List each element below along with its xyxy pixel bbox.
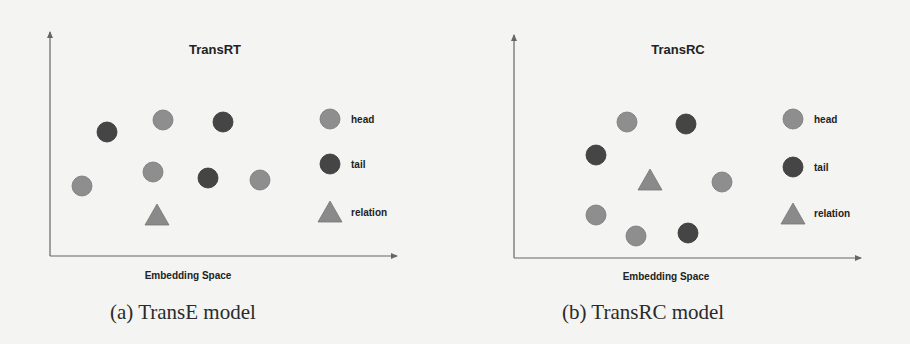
panel-a: TransRT Embedding Space head tail relati… bbox=[50, 32, 397, 281]
data-points bbox=[72, 110, 270, 225]
legend-head-icon bbox=[783, 109, 803, 129]
tail-point bbox=[198, 168, 218, 188]
caption-a: (a) TransE model bbox=[110, 300, 256, 325]
tail-point bbox=[676, 114, 696, 134]
chart-title: TransRT bbox=[189, 42, 241, 57]
legend-tail-icon bbox=[320, 154, 340, 174]
head-point bbox=[153, 110, 173, 130]
relation-point bbox=[638, 169, 662, 190]
tail-point bbox=[586, 145, 606, 165]
head-point bbox=[626, 226, 646, 246]
legend: head tail relation bbox=[318, 109, 387, 222]
tail-point bbox=[97, 122, 117, 142]
head-point bbox=[617, 112, 637, 132]
panel-b: TransRC Embedding Space head tail relati… bbox=[514, 35, 861, 282]
legend-tail-label: tail bbox=[351, 159, 366, 170]
chart-title: TransRC bbox=[651, 42, 705, 57]
legend-relation-icon bbox=[318, 201, 342, 222]
x-axis-label: Embedding Space bbox=[623, 271, 710, 282]
head-point bbox=[712, 172, 732, 192]
legend-relation-label: relation bbox=[351, 207, 387, 218]
legend-head-label: head bbox=[351, 114, 374, 125]
tail-point bbox=[213, 112, 233, 132]
data-points bbox=[586, 112, 732, 246]
relation-point bbox=[145, 204, 169, 225]
figure-canvas: TransRT Embedding Space head tail relati… bbox=[0, 0, 910, 344]
legend-relation-label: relation bbox=[814, 208, 850, 219]
head-point bbox=[143, 162, 163, 182]
head-point bbox=[586, 205, 606, 225]
caption-b: (b) TransRC model bbox=[562, 300, 724, 325]
legend-head-icon bbox=[320, 109, 340, 129]
legend-relation-icon bbox=[781, 203, 805, 224]
legend-head-label: head bbox=[814, 114, 837, 125]
legend-tail-label: tail bbox=[814, 162, 829, 173]
figure: TransRT Embedding Space head tail relati… bbox=[0, 0, 910, 344]
tail-point bbox=[678, 223, 698, 243]
head-point bbox=[72, 176, 92, 196]
legend: head tail relation bbox=[781, 109, 850, 224]
x-axis-label: Embedding Space bbox=[145, 270, 232, 281]
head-point bbox=[250, 170, 270, 190]
legend-tail-icon bbox=[783, 157, 803, 177]
